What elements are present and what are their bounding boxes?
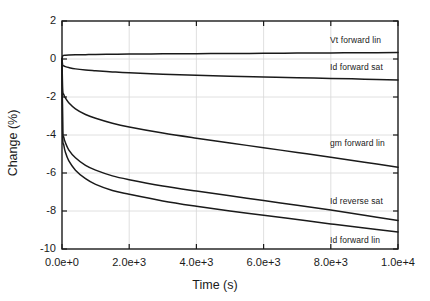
series-label-1: Id forward sat: [330, 62, 383, 72]
y-tick-label: -10: [16, 242, 56, 254]
x-tick-label: 6.0e+3: [232, 256, 296, 268]
curve-0: [62, 53, 398, 59]
x-axis-label: Time (s): [0, 278, 430, 292]
y-axis-label-container: Change (%): [2, 90, 24, 200]
y-tick-label: -4: [16, 128, 56, 140]
y-tick-label: 0: [16, 52, 56, 64]
series-label-3: Id reverse sat: [330, 196, 383, 206]
y-tick-label: -6: [16, 166, 56, 178]
y-tick-label: 2: [16, 14, 56, 26]
series-label-2: gm forward lin: [330, 138, 385, 148]
chart-figure: Change (%) Time (s) 0.0e+02.0e+34.0e+36.…: [0, 0, 430, 301]
series-label-0: Vt forward lin: [330, 35, 381, 45]
x-tick-label: 8.0e+3: [299, 256, 363, 268]
y-axis-label: Change (%): [6, 88, 20, 198]
series-label-4: Id forward lin: [330, 235, 380, 245]
x-tick-label: 2.0e+3: [97, 256, 161, 268]
gridlines: [62, 21, 398, 249]
curve-2: [62, 59, 398, 167]
x-tick-label: 4.0e+3: [164, 256, 228, 268]
y-tick-label: -8: [16, 204, 56, 216]
x-tick-label: 1.0e+4: [366, 256, 430, 268]
y-tick-label: -2: [16, 90, 56, 102]
x-tick-label: 0.0e+0: [30, 256, 94, 268]
